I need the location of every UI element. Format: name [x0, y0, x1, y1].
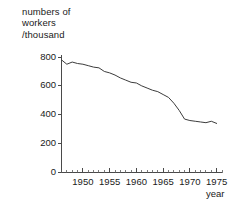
axes: [62, 55, 223, 173]
x-tick-label: 1975: [197, 176, 237, 187]
y-tick-label: 0: [18, 166, 56, 177]
x-axis-major-ticks: [83, 168, 217, 173]
y-tick-label: 800: [18, 51, 56, 62]
y-axis-ticks: [58, 57, 62, 173]
y-tick-label: 200: [18, 137, 56, 148]
line-chart-figure: numbers of workers /thousand year 020040…: [0, 0, 246, 205]
y-tick-label: 400: [18, 108, 56, 119]
y-tick-label: 600: [18, 79, 56, 90]
data-series-line: [62, 60, 217, 124]
